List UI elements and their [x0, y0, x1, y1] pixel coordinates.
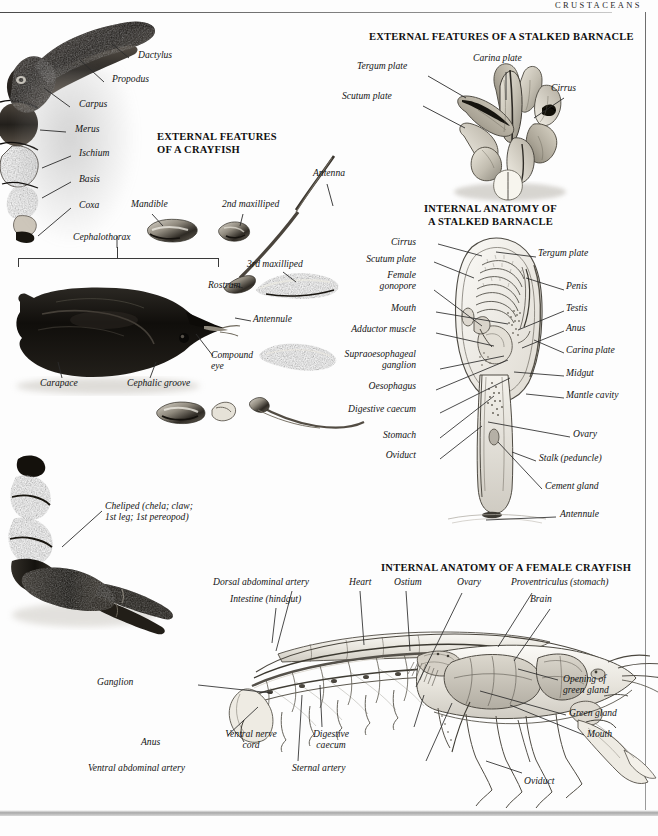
- heading-crayfish-internal: INTERNAL ANATOMY OF A FEMALE CRAYFISH: [381, 562, 631, 575]
- heading-crayfish-external: EXTERNAL FEATURES OF A CRAYFISH: [157, 131, 277, 156]
- label-line: caecum: [300, 739, 362, 750]
- label-stalk-peduncle: Stalk (peduncle): [539, 452, 602, 463]
- label-brain: Brain: [530, 593, 552, 604]
- label-line: Female: [318, 269, 416, 280]
- label-oviduct-barnacle: Oviduct: [344, 449, 416, 460]
- label-carpus: Carpus: [79, 98, 107, 109]
- label-antennule-barnacle: Antennule: [560, 508, 599, 519]
- label-compound-eye: Compound eye: [211, 349, 253, 371]
- label-female-gonopore: Female gonopore: [318, 269, 416, 291]
- label-intestine-hindgut: Intestine (hindgut): [230, 593, 301, 604]
- label-line: green gland: [563, 684, 609, 695]
- label-mouth-barnacle: Mouth: [330, 302, 416, 313]
- page-canvas: CRUSTACEANS EXTERNAL FEATURES OF A CRAYF…: [0, 0, 658, 836]
- label-line: Opening of: [563, 673, 609, 684]
- label-line: eye: [211, 360, 253, 371]
- label-cephalic-groove: Cephalic groove: [127, 377, 190, 388]
- page-header-title: CRUSTACEANS: [555, 0, 642, 10]
- label-mandible: Mandible: [131, 198, 168, 209]
- label-antennule-ext: Antennule: [253, 313, 292, 324]
- label-cirrus-ext: Cirrus: [551, 82, 576, 93]
- carapace-leader-lines: [0, 196, 340, 396]
- label-green-gland: Green gland: [569, 707, 617, 718]
- label-carapace: Carapace: [40, 377, 78, 388]
- label-anus-barnacle: Anus: [566, 322, 585, 333]
- label-line: gonopore: [318, 280, 416, 291]
- label-cheliped: Cheliped (chela; claw; 1st leg; 1st pere…: [105, 500, 193, 522]
- heading-line: OF A CRAYFISH: [157, 144, 277, 157]
- label-scutum-plate-ext: Scutum plate: [342, 90, 392, 101]
- label-carina-plate-ext: Carina plate: [473, 52, 522, 63]
- label-ostium: Ostium: [394, 576, 422, 587]
- label-cephalothorax: Cephalothorax: [73, 231, 131, 242]
- label-line: ganglion: [300, 359, 416, 370]
- label-dorsal-abdominal-artery: Dorsal abdominal artery: [213, 576, 309, 587]
- label-line: cord: [212, 739, 290, 750]
- label-line: Ventral nerve: [212, 728, 290, 739]
- label-2nd-maxilliped: 2nd maxilliped: [222, 198, 279, 209]
- label-sternal-artery: Sternal artery: [292, 762, 346, 773]
- label-line: 1st leg; 1st pereopod): [105, 511, 193, 522]
- label-adductor-muscle: Adductor muscle: [300, 323, 416, 334]
- label-heart: Heart: [349, 576, 371, 587]
- label-anus-crayfish: Anus: [141, 736, 160, 747]
- label-digestive-caecum-barnacle: Digestive caecum: [300, 403, 416, 414]
- label-tergum-plate-int: Tergum plate: [538, 247, 588, 258]
- label-carina-plate-int: Carina plate: [566, 344, 615, 355]
- label-scutum-plate-int: Scutum plate: [300, 253, 416, 264]
- label-ovary-crayfish: Ovary: [457, 576, 481, 587]
- label-oesophagus: Oesophagus: [316, 380, 416, 391]
- label-merus: Merus: [75, 123, 100, 134]
- label-antenna: Antenna: [313, 167, 345, 178]
- label-propodus: Propodus: [112, 73, 149, 84]
- label-oviduct-crayfish: Oviduct: [524, 775, 554, 786]
- label-proventriculus: Proventriculus (stomach): [511, 576, 608, 587]
- label-line: Compound: [211, 349, 253, 360]
- label-mouth-crayfish: Mouth: [587, 728, 612, 739]
- label-ischium: Ischium: [79, 147, 109, 158]
- heading-line: EXTERNAL FEATURES: [157, 131, 277, 144]
- label-tergum-plate-ext: Tergum plate: [357, 60, 407, 71]
- label-stomach-barnacle: Stomach: [330, 429, 416, 440]
- label-basis: Basis: [79, 173, 100, 184]
- label-dactylus: Dactylus: [138, 49, 172, 60]
- label-testis: Testis: [566, 302, 588, 313]
- label-mantle-cavity: Mantle cavity: [566, 389, 618, 400]
- label-cement-gland: Cement gland: [545, 480, 599, 491]
- label-cirrus-int: Cirrus: [338, 236, 416, 247]
- label-ventral-abdominal-artery: Ventral abdominal artery: [88, 762, 185, 773]
- label-rostrum: Rostrum: [208, 279, 241, 290]
- label-midgut: Midgut: [566, 367, 594, 378]
- label-line: Supraoesophageal: [300, 348, 416, 359]
- label-supraoesophageal-ganglion: Supraoesophageal ganglion: [300, 348, 416, 370]
- label-opening-of-green-gland: Opening of green gland: [563, 673, 609, 695]
- label-ventral-nerve-cord: Ventral nerve cord: [212, 728, 290, 750]
- label-ovary-barnacle: Ovary: [573, 428, 597, 439]
- label-digestive-caecum-crayfish: Digestive caecum: [300, 728, 362, 750]
- label-line: Digestive: [300, 728, 362, 739]
- label-penis: Penis: [566, 280, 587, 291]
- label-ganglion: Ganglion: [97, 676, 133, 687]
- label-3rd-maxilliped: 3rd maxilliped: [247, 258, 303, 269]
- label-line: Cheliped (chela; claw;: [105, 500, 193, 511]
